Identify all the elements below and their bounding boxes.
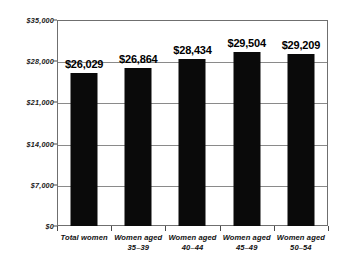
x-axis-label-line2: 40–44 [168,243,216,253]
bar-value-label: $29,504 [228,37,266,49]
x-axis-label-line2: 50–54 [277,243,325,253]
bar-slot [57,20,111,226]
bar [233,52,260,226]
x-axis-label-line1: Women aged [223,233,271,242]
y-axis-tick-label: $35,000 [27,16,54,25]
bar-slot [220,20,274,226]
x-axis-label-line1: Women aged [277,233,325,242]
y-axis-tick-label: $21,000 [27,98,54,107]
x-axis-tick-label: Women aged40–44 [168,233,216,253]
bar [125,68,152,226]
x-axis-tick-mark [111,226,112,231]
bar-value-label: $26,029 [65,58,103,70]
bar-value-label: $26,864 [119,53,157,65]
bar [179,59,206,226]
x-axis-tick-label: Women aged35–39 [114,233,162,253]
x-axis-label-line1: Total women [60,233,107,242]
x-axis-tick-label: Women aged50–54 [277,233,325,253]
bar [287,54,314,226]
x-axis-tick-mark [274,226,275,231]
bar-value-label: $28,434 [173,44,211,56]
bar-value-label: $29,209 [282,39,320,51]
y-axis-tick-label: $28,000 [27,57,54,66]
x-axis-label-line2: 35–39 [114,243,162,253]
x-axis-label-line1: Women aged [114,233,162,242]
y-axis-tick-label: $7,000 [31,180,54,189]
x-axis-label-line1: Women aged [168,233,216,242]
bar-chart: $0$7,000$14,000$21,000$28,000$35,000 $26… [0,0,348,273]
x-axis-tick-label: Total women [60,233,107,243]
x-axis-label-line2: 45–49 [223,243,271,253]
x-axis-tick-mark [165,226,166,231]
x-axis-tick-mark [328,226,329,231]
x-axis-tick-label: Women aged45–49 [223,233,271,253]
bar-slot [111,20,165,226]
x-axis-tick-mark [57,226,58,231]
y-axis-tick-label: $14,000 [27,139,54,148]
x-axis-tick-mark [220,226,221,231]
bar [71,73,98,226]
